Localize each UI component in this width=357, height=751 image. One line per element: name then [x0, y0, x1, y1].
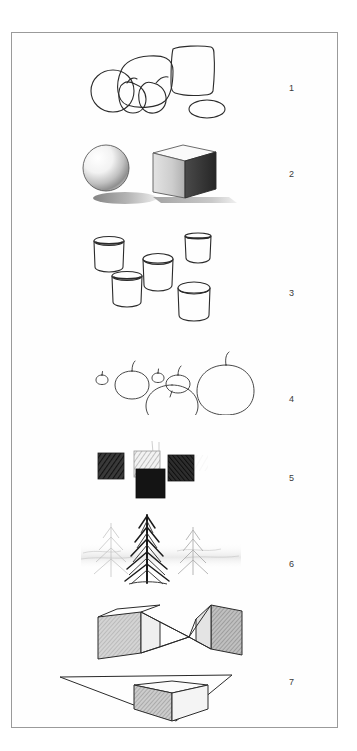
plate-number-1: 1	[289, 83, 294, 93]
plate-7-two-point-perspective-boxes	[56, 597, 246, 723]
worksheet-sheet: 1	[11, 32, 338, 728]
plate-number-3: 3	[289, 288, 294, 298]
plate-2-sphere-and-cube-shading	[79, 137, 239, 213]
plate-number-4: 4	[289, 394, 294, 404]
plate-number-6: 6	[289, 559, 294, 569]
plate-6-pine-trees-atmospheric-perspective	[81, 507, 241, 589]
plate-number-7: 7	[289, 677, 294, 687]
plate-5-value-squares-study	[96, 439, 236, 505]
plate-number-5: 5	[289, 473, 294, 483]
plate-3-cylinders-eye-level-study	[86, 231, 246, 331]
plate-4-apples-scale-study	[86, 333, 256, 415]
plate-number-2: 2	[289, 169, 294, 179]
plate-1-contour-still-life	[61, 37, 231, 121]
